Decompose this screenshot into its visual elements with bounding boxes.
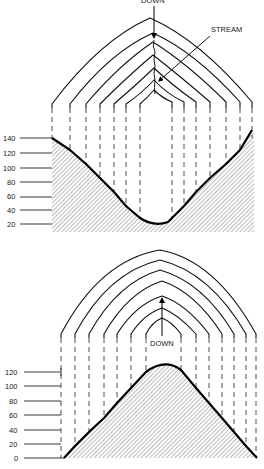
axis-label: 60 [9,411,17,420]
valley-elevation-axis: 140 120 100 80 60 40 20 [3,134,52,229]
bottom-figure-ridge: DOWN 120 100 80 60 40 20 0 [5,250,257,463]
axis-label: 60 [7,192,15,201]
axis-label: 40 [7,206,15,215]
contour-diagram: DOWN STREAM [0,0,264,469]
bottom-down-label: DOWN [150,339,174,348]
stream-label: STREAM [211,25,242,34]
valley-ground-hatch [52,130,254,232]
axis-label: 40 [9,426,17,435]
axis-label: 20 [7,220,15,229]
axis-label: 100 [3,164,16,173]
axis-label: 20 [9,440,17,449]
axis-label: 140 [3,134,16,143]
top-figure-valley: DOWN STREAM [3,0,254,232]
stream-pointer-arrow-icon [160,36,210,80]
axis-label: 120 [3,149,16,158]
ridge-contour-lines [61,250,256,338]
stream-line [153,40,155,94]
axis-label: 80 [7,178,15,187]
top-down-label: DOWN [141,0,165,5]
ridge-elevation-axis: 120 100 80 60 40 20 0 [5,368,64,463]
axis-label: 0 [14,454,18,463]
axis-label: 80 [9,397,17,406]
ridge-ground-hatch [64,364,257,458]
axis-label: 100 [5,382,18,391]
axis-label: 120 [5,368,18,377]
